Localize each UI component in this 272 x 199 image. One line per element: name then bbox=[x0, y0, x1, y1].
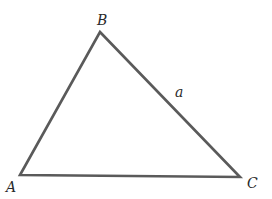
triangle-abc bbox=[20, 32, 240, 177]
side-label-a: a bbox=[175, 84, 183, 100]
vertex-label-a: A bbox=[4, 179, 16, 195]
triangle-diagram: B A C a bbox=[0, 0, 272, 199]
vertex-label-c: C bbox=[247, 175, 258, 191]
vertex-label-b: B bbox=[96, 12, 107, 28]
